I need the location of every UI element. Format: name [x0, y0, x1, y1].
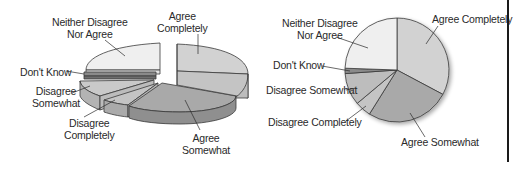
- label-agree-somewhat-3d: Agree Somewhat: [182, 132, 230, 156]
- slice-neither-top: [86, 43, 160, 70]
- label-dont-know-2d: Don't Know: [273, 59, 324, 71]
- label-disagree-completely-2d: Disagree Completely: [268, 116, 362, 128]
- label-neither-3d: Neither Disagree Nor Agree: [52, 16, 128, 40]
- slice-dont-know-top: [84, 72, 156, 76]
- vertical-rule: [507, 0, 509, 162]
- pie-chart-2d: Agree Completely Neither Disagree Nor Ag…: [260, 0, 521, 170]
- label-neither-2d: Neither Disagree Nor Agree: [282, 17, 358, 41]
- label-agree-completely-2d: Agree Completely: [432, 13, 512, 25]
- label-disagree-completely-3d: Disagree Completely: [64, 117, 115, 141]
- label-agree-completely-3d: Agree Completely: [157, 10, 208, 34]
- label-agree-somewhat-2d: Agree Somewhat: [401, 136, 479, 148]
- label-disagree-somewhat-3d: Disagree Somewhat: [32, 85, 80, 109]
- slice-dont-know-side: [84, 76, 156, 79]
- slice-agree-completely-top: [177, 44, 248, 74]
- pie-chart-3d: Agree Completely Neither Disagree Nor Ag…: [0, 0, 260, 170]
- label-disagree-somewhat-2d: Disagree Somewhat: [266, 84, 357, 96]
- label-dont-know-3d: Don't Know: [20, 66, 71, 78]
